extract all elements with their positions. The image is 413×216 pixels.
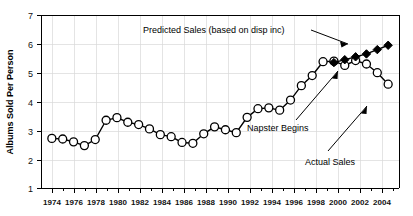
x-tick-label: 1986 [175, 198, 193, 207]
data-point-marker [167, 133, 175, 141]
data-point-marker [265, 104, 273, 112]
data-point-marker [373, 69, 381, 77]
y-tick-label: 4 [28, 98, 33, 108]
x-tick-label: 1982 [131, 198, 149, 207]
x-tick-label: 1974 [43, 198, 61, 207]
data-point-marker [287, 96, 295, 104]
data-point-marker [200, 130, 208, 138]
x-tick-label: 1978 [87, 198, 105, 207]
data-point-marker [124, 118, 132, 126]
x-tick-label: 1976 [65, 198, 83, 207]
data-point-marker [308, 72, 316, 80]
x-tick-label: 1984 [153, 198, 171, 207]
data-point-marker [232, 129, 240, 137]
x-tick-label: 1988 [197, 198, 215, 207]
x-tick-label: 1998 [307, 198, 325, 207]
annotation-predicted-sales-label: Predicted Sales (based on disp inc) [143, 25, 285, 35]
data-point-marker [254, 105, 262, 113]
x-tick-label: 1994 [263, 198, 281, 207]
y-tick-label: 7 [28, 11, 33, 21]
sales-line-chart: 7 6 5 4 3 2 1 Albums Sold Per Person [0, 0, 413, 216]
x-tick-label: 2004 [373, 198, 391, 207]
chart-container: 7 6 5 4 3 2 1 Albums Sold Per Person [0, 0, 413, 216]
data-point-marker [319, 58, 327, 66]
data-point-marker [145, 125, 153, 133]
data-point-marker [70, 138, 78, 146]
data-point-marker [48, 134, 56, 142]
data-point-marker [80, 142, 88, 150]
x-tick-label: 1980 [109, 198, 127, 207]
data-point-marker [243, 113, 251, 121]
x-tick-label: 2000 [329, 198, 347, 207]
x-tick-label: 1996 [285, 198, 303, 207]
y-tick-label: 5 [28, 69, 33, 79]
data-point-marker [135, 121, 143, 129]
data-point-marker [102, 116, 110, 124]
data-point-marker [297, 82, 305, 90]
data-point-marker [276, 106, 284, 114]
data-point-marker [113, 114, 121, 122]
y-tick-label: 2 [28, 156, 33, 166]
data-point-marker [221, 126, 229, 134]
data-point-marker [211, 123, 219, 131]
y-tick-label: 3 [28, 127, 33, 137]
data-point-marker [384, 80, 392, 88]
data-point-marker [91, 136, 99, 144]
annotation-napster-begins-label: Napster Begins [247, 123, 309, 133]
x-tick-label: 2002 [351, 198, 369, 207]
data-point-marker [189, 139, 197, 147]
y-tick-label: 1 [28, 184, 33, 194]
data-point-marker [59, 135, 67, 143]
annotation-actual-sales-label: Actual Sales [305, 157, 356, 167]
x-tick-label: 1990 [219, 198, 237, 207]
y-tick-label: 6 [28, 40, 33, 50]
y-axis-title: Albums Sold Per Person [5, 49, 15, 154]
data-point-marker [178, 138, 186, 146]
x-tick-label: 1992 [241, 198, 259, 207]
data-point-marker [156, 131, 164, 139]
data-point-marker [362, 60, 370, 68]
